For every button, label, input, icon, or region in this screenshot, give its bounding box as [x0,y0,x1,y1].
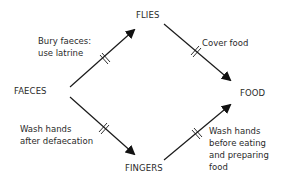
barrier-label-wash-after: Wash hands after defaecation [20,123,93,147]
barrier-label-line: before eating [209,137,269,149]
node-flies: FLIES [136,10,159,20]
barrier-label-line: food [209,161,269,173]
barrier-label-bury-faeces: Bury faeces: use latrine [38,35,91,59]
node-food: FOOD [240,88,265,98]
node-fingers: FINGERS [125,163,163,173]
barrier-label-line: Cover food [202,37,248,49]
node-faeces: FAECES [14,86,47,96]
barrier-label-line: and preparing [209,149,269,161]
barrier-label-wash-before: Wash hands before eating and preparing f… [209,125,269,173]
barrier-label-line: Wash hands [20,123,93,135]
barrier-label-line: Bury faeces: [38,35,91,47]
barrier-label-line: after defaecation [20,135,93,147]
arrow-flies-to-food [164,24,230,80]
barrier-label-line: use latrine [38,47,91,59]
barrier-label-line: Wash hands [209,125,269,137]
barrier-label-cover-food: Cover food [202,37,248,49]
